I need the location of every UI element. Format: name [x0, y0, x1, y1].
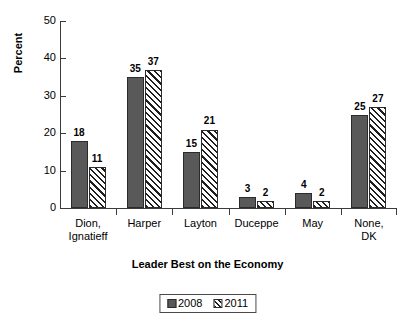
x-axis-tick [172, 209, 173, 215]
bar-2011-may[interactable] [313, 201, 330, 209]
bar-2008-layton[interactable] [183, 152, 200, 208]
x-axis-category-label: Layton [172, 217, 228, 230]
x-axis-category-label-line: Harper [116, 217, 172, 230]
bar-2011-layton[interactable] [201, 130, 218, 209]
y-axis-tick-label-wrap: 50 [0, 15, 56, 26]
y-axis-tick-label-wrap: 20 [0, 127, 56, 138]
legend-label: 2008 [178, 297, 202, 309]
x-axis-category-label-line: DK [341, 230, 397, 243]
bar-value-label: 2 [310, 188, 334, 198]
x-axis-tick [341, 209, 342, 215]
bar-2008-duceppe[interactable] [239, 197, 256, 208]
x-axis-category-label: None,DK [341, 217, 397, 243]
x-axis-category-label: Duceppe [229, 217, 285, 230]
x-axis-tick [229, 209, 230, 215]
bar-2011-harper[interactable] [145, 70, 162, 208]
y-axis-tick-label: 0 [2, 202, 56, 213]
legend-swatch-icon [213, 299, 222, 308]
x-axis-category-label: Dion,Ignatieff [60, 217, 116, 243]
bar-value-label: 2 [254, 188, 278, 198]
y-axis-tick-label-wrap: 10 [0, 165, 56, 176]
bar-2008-harper[interactable] [127, 77, 144, 208]
bar-2011-duceppe[interactable] [257, 201, 274, 209]
legend-item-2008[interactable]: 2008 [167, 297, 202, 309]
x-axis-category-label-line: May [285, 217, 341, 230]
plot-area [60, 21, 397, 208]
legend: 20082011 [159, 294, 256, 313]
bar-value-label: 27 [366, 94, 390, 104]
y-axis-tick-label: 30 [2, 90, 56, 101]
bar-chart: Percent 01020304050 Dion,IgnatieffHarper… [0, 0, 415, 332]
x-axis-category-label-line: None, [341, 217, 397, 230]
bar-2008-dion-ignatieff[interactable] [71, 141, 88, 208]
x-axis-tick [396, 209, 397, 215]
bar-value-label: 37 [141, 57, 165, 67]
x-axis-category-label-line: Dion, [60, 217, 116, 230]
bar-value-label: 11 [85, 154, 109, 164]
legend-swatch-icon [167, 299, 176, 308]
y-axis-tick-label: 40 [2, 52, 56, 63]
y-axis-tick-label-wrap: 0 [0, 202, 56, 213]
x-axis-category-label: May [285, 217, 341, 230]
x-axis-category-label-line: Layton [172, 217, 228, 230]
x-axis-title: Leader Best on the Economy [0, 258, 415, 270]
bar-2011-none-dk[interactable] [369, 107, 386, 208]
x-axis-tick [285, 209, 286, 215]
y-axis-tick-label-wrap: 30 [0, 90, 56, 101]
legend-label: 2011 [224, 297, 248, 309]
bar-value-label: 18 [67, 128, 91, 138]
x-axis-category-label-line: Duceppe [229, 217, 285, 230]
x-axis-category-label-line: Ignatieff [60, 230, 116, 243]
bar-2008-none-dk[interactable] [351, 115, 368, 209]
y-axis-tick-label: 20 [2, 127, 56, 138]
x-axis-tick [116, 209, 117, 215]
y-axis-tick-label: 10 [2, 165, 56, 176]
bar-value-label: 21 [197, 116, 221, 126]
y-axis-tick-label-wrap: 40 [0, 52, 56, 63]
y-axis-tick-label: 50 [2, 15, 56, 26]
bar-value-label: 15 [179, 139, 203, 149]
legend-item-2011[interactable]: 2011 [213, 297, 248, 309]
bar-2011-dion-ignatieff[interactable] [89, 167, 106, 208]
x-axis-category-label: Harper [116, 217, 172, 230]
